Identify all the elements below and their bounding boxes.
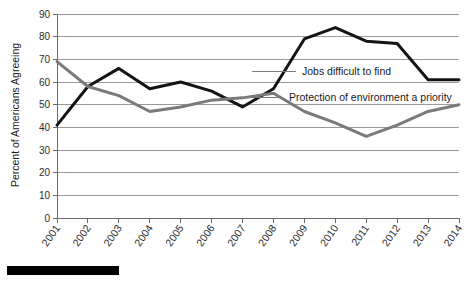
series-line-0 — [57, 28, 459, 125]
x-axis-tick-marks — [57, 218, 459, 223]
x-axis-tick-labels: 2001200220032004200520062007200820092010… — [39, 222, 464, 248]
y-tick-label-20: 20 — [39, 167, 51, 178]
y-tick-label-40: 40 — [39, 122, 51, 133]
x-tick-label-2002: 2002 — [70, 222, 93, 248]
y-tick-label-10: 10 — [39, 190, 51, 201]
y-tick-label-50: 50 — [39, 99, 51, 110]
x-tick-label-2005: 2005 — [163, 222, 186, 248]
x-tick-label-2006: 2006 — [194, 222, 217, 248]
y-tick-label-80: 80 — [39, 31, 51, 42]
series-annotation-label-0: Jobs difficult to find — [302, 65, 391, 77]
y-tick-label-30: 30 — [39, 145, 51, 156]
y-axis-title: Percent of Americans Agreeing — [9, 43, 21, 187]
x-tick-label-2013: 2013 — [410, 222, 433, 248]
y-tick-label-0: 0 — [44, 213, 50, 224]
y-tick-label-90: 90 — [39, 9, 51, 20]
line-chart: 0102030405060708090 20012002200320042005… — [0, 0, 473, 282]
x-tick-label-2010: 2010 — [317, 222, 340, 248]
y-tick-label-70: 70 — [39, 54, 51, 65]
series-annotation-label-1: Protection of environment a priority — [289, 91, 453, 103]
footer-rule — [7, 266, 119, 275]
x-tick-label-2004: 2004 — [132, 222, 155, 248]
y-axis-tick-labels: 0102030405060708090 — [39, 9, 51, 224]
x-tick-label-2011: 2011 — [349, 222, 372, 248]
x-tick-label-2014: 2014 — [441, 222, 464, 248]
x-tick-label-2008: 2008 — [255, 222, 278, 248]
y-axis-tick-marks — [53, 14, 57, 218]
x-tick-label-2007: 2007 — [224, 222, 247, 248]
x-tick-label-2001: 2001 — [39, 222, 62, 248]
y-tick-label-60: 60 — [39, 77, 51, 88]
x-tick-label-2009: 2009 — [286, 222, 309, 248]
x-tick-label-2003: 2003 — [101, 222, 124, 248]
x-tick-label-2012: 2012 — [379, 222, 402, 248]
gridlines — [57, 14, 459, 195]
chart-canvas: 0102030405060708090 20012002200320042005… — [0, 0, 473, 282]
